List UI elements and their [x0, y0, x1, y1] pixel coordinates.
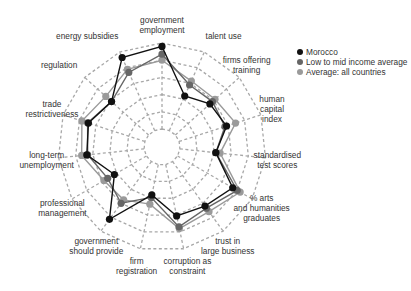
axis-label: humancapitalindex: [259, 94, 285, 124]
data-point: [212, 149, 219, 156]
legend-marker-icon: [297, 59, 303, 65]
legend-marker-icon: [297, 49, 303, 55]
axis-label: professionalmanagement: [38, 198, 87, 218]
data-point: [206, 100, 213, 107]
axis-label: % artsand humanitiesgraduates: [234, 193, 290, 223]
axis-label: corruption asconstraint: [163, 256, 211, 276]
data-point: [148, 191, 155, 198]
data-point: [85, 120, 92, 127]
legend-label: Low to mid income average: [306, 57, 407, 67]
data-point: [125, 69, 132, 76]
data-point: [229, 184, 236, 191]
legend-marker-icon: [297, 69, 303, 75]
axis-label: firmregistration: [116, 256, 157, 276]
data-point: [232, 120, 239, 127]
legend: Morocco Low to mid income average Averag…: [297, 47, 407, 77]
data-point: [102, 93, 109, 100]
data-point: [119, 54, 126, 61]
grid-spoke: [59, 149, 145, 158]
data-point: [173, 212, 180, 219]
grid-spoke: [166, 165, 184, 249]
radar-chart: governmentemploymenttalent usefirms offe…: [0, 0, 411, 291]
data-point: [175, 223, 182, 230]
axis-label: long-termunemployment: [19, 150, 74, 170]
legend-label: Average: all countries: [306, 67, 386, 77]
axis-label: talent use: [206, 31, 242, 41]
axis-label: trust inlarge business: [201, 236, 255, 256]
data-point: [186, 81, 193, 88]
data-point: [201, 202, 208, 209]
radar-series: [78, 43, 244, 232]
data-point: [158, 43, 165, 50]
axis-label: governmentshould provide: [69, 236, 123, 256]
legend-item-morocco: Morocco: [297, 47, 407, 57]
grid-ring: [76, 60, 249, 232]
data-point: [111, 171, 118, 178]
axis-label: governmentemployment: [139, 15, 185, 35]
grid-spoke: [85, 77, 149, 135]
data-point: [108, 98, 115, 105]
legend-item-all-countries: Average: all countries: [297, 67, 407, 77]
data-point: [117, 200, 124, 207]
grid-spoke: [173, 162, 224, 232]
legend-label: Morocco: [306, 47, 338, 57]
data-point: [181, 92, 188, 99]
series-morocco: [83, 43, 236, 223]
grid-ring: [144, 129, 180, 165]
axis-label: firms offeringtraining: [223, 55, 271, 75]
data-point: [104, 175, 111, 182]
axis-label: standardisedtest scores: [254, 150, 302, 170]
legend-item-low-mid-income: Low to mid income average: [297, 57, 407, 67]
data-point: [146, 201, 153, 208]
data-point: [223, 122, 230, 129]
axis-label: regulation: [41, 60, 78, 70]
data-point: [83, 151, 90, 158]
data-point: [106, 216, 113, 223]
axis-label: energy subsidies: [56, 31, 118, 41]
